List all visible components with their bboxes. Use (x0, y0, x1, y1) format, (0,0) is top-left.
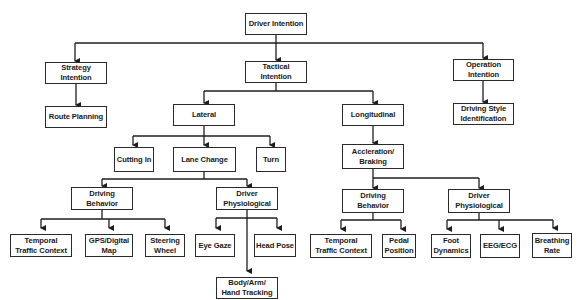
node-label: Eye Gaze (199, 241, 232, 251)
node-lane-change-driver-physiological: Driver Physiological (216, 187, 278, 210)
node-gps-digital-map: GPS/Digital Map (85, 234, 133, 257)
node-lane-change: Lane Change (173, 147, 236, 172)
node-label: Driving Behavior (86, 189, 118, 209)
node-label: Route Planning (49, 112, 103, 122)
node-longitudinal: Longitudinal (342, 104, 404, 126)
node-turn: Turn (256, 147, 286, 172)
node-operation-intention: Operation Intention (453, 59, 514, 81)
node-ab-temporal-traffic-context: Temporal Traffic Context (310, 234, 372, 258)
node-label: Driver Intention (249, 19, 304, 29)
node-cutting-in: Cutting In (114, 147, 154, 172)
node-label: Cutting In (117, 155, 151, 165)
node-label: Strategy Intention (60, 63, 91, 83)
node-label: EEG/ECG (483, 241, 517, 251)
node-label: GPS/Digital Map (89, 236, 129, 256)
node-label: Operation Intention (466, 60, 501, 80)
node-label: Driving Style Identification (461, 104, 507, 124)
node-label: Tactical Intention (260, 62, 291, 82)
node-acceleration-braking: Accleration/ Braking (342, 144, 404, 169)
node-eeg-ecg: EEG/ECG (480, 234, 520, 258)
node-label: Longitudinal (351, 110, 395, 120)
node-route-planning: Route Planning (45, 106, 107, 128)
node-accel-driver-physiological: Driver Physiological (448, 189, 510, 213)
node-label: Pedal Position (384, 236, 413, 256)
node-label: Accleration/ Braking (352, 147, 394, 167)
node-label: Lateral (192, 110, 216, 120)
node-breathing-rate: Breathing Rate (532, 233, 572, 258)
node-driver-intention: Driver Intention (245, 13, 307, 35)
node-lc-temporal-traffic-context: Temporal Traffic Context (10, 234, 72, 257)
node-label: Turn (263, 155, 279, 165)
driver-intention-tree-diagram: Driver Intention Strategy Intention Tact… (0, 0, 582, 300)
node-label: Temporal Traffic Context (15, 236, 67, 256)
node-lane-change-driving-behavior: Driving Behavior (71, 187, 133, 210)
node-label: Foot Dynamics (433, 236, 468, 256)
node-accel-driving-behavior: Driving Behavior (342, 189, 404, 213)
node-label: Steering Wheel (150, 236, 180, 256)
node-head-pose: Head Pose (254, 234, 296, 257)
node-body-arm-hand-tracking: Body/Arm/ Hand Tracking (216, 277, 278, 299)
node-steering-wheel: Steering Wheel (145, 234, 185, 257)
node-pedal-position: Pedal Position (382, 234, 416, 258)
node-strategy-intention: Strategy Intention (45, 62, 107, 84)
node-label: Body/Arm/ Hand Tracking (221, 278, 272, 298)
node-driving-style-identification: Driving Style Identification (453, 103, 514, 125)
node-lateral: Lateral (173, 104, 235, 126)
node-label: Driving Behavior (357, 191, 389, 211)
node-foot-dynamics: Foot Dynamics (431, 234, 471, 258)
node-label: Driver Physiological (455, 191, 503, 211)
node-label: Lane Change (181, 155, 228, 165)
node-label: Head Pose (256, 241, 294, 251)
node-tactical-intention: Tactical Intention (245, 61, 307, 83)
node-eye-gaze: Eye Gaze (195, 234, 235, 257)
node-label: Breathing Rate (535, 236, 570, 256)
node-label: Driver Physiological (223, 189, 271, 209)
node-label: Temporal Traffic Context (315, 236, 367, 256)
